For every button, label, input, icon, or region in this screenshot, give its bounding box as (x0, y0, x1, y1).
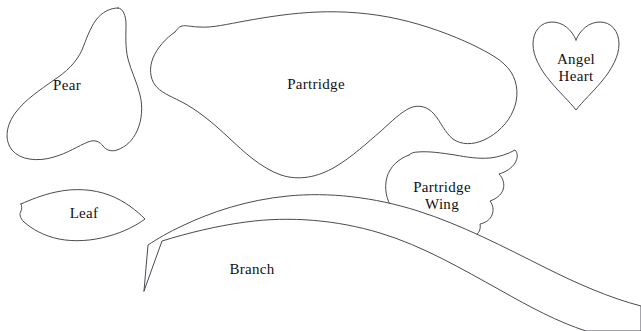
pattern-sheet: Pear Partridge Angel Heart Leaf Partridg… (0, 0, 641, 331)
pattern-shapes-canvas (0, 0, 641, 331)
